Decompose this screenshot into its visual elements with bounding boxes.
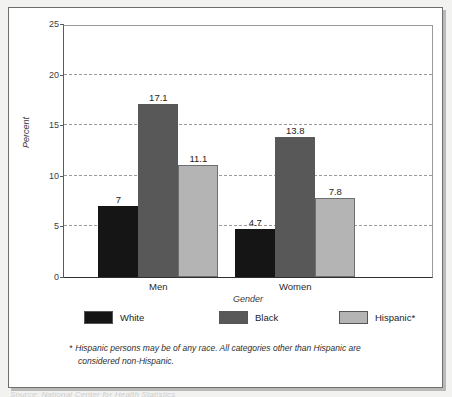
bar-value-label: 17.1 (149, 92, 168, 103)
plot-wrapper: Percent Gender 0510152025717.111.1Men4.7… (9, 8, 444, 389)
y-tick-mark-5 (60, 226, 64, 227)
x-group-label-women: Women (279, 281, 312, 292)
legend-item-black[interactable]: Black (219, 311, 278, 324)
legend-label-black: Black (255, 312, 278, 323)
bar-women-black: 13.8 (275, 137, 315, 277)
y-axis-title: Percent (21, 117, 31, 148)
y-tick-mark-0 (60, 277, 64, 278)
footnote-line-2: considered non-Hispanic. (69, 355, 389, 368)
bar-women-hispanic: 7.8 (315, 198, 355, 277)
gridline-10 (64, 175, 432, 176)
chart-legend: WhiteBlackHispanic* (9, 311, 444, 327)
bar-women-white: 4.7 (235, 229, 275, 277)
bar-men-hispanic: 11.1 (178, 165, 218, 277)
cut-off-caption: Source: National Center for Health Stati… (10, 390, 430, 397)
chart-footnote: *Hispanic persons may be of any race. Al… (69, 342, 389, 368)
footnote-text-1: Hispanic persons may be of any race. All… (75, 343, 361, 353)
y-tick-label-10: 10 (49, 171, 59, 181)
y-tick-label-5: 5 (54, 221, 59, 231)
bar-value-label: 13.8 (286, 125, 305, 136)
y-tick-mark-10 (60, 176, 64, 177)
legend-label-hispanic: Hispanic* (375, 312, 415, 323)
bar-men-white: 7 (98, 206, 138, 277)
footnote-line-1: *Hispanic persons may be of any race. Al… (69, 342, 389, 355)
figure-canvas: Percent Gender 0510152025717.111.1Men4.7… (0, 0, 452, 397)
y-tick-label-20: 20 (49, 70, 59, 80)
legend-item-white[interactable]: White (84, 311, 144, 324)
plot-area: 0510152025717.111.1Men4.713.87.8Women (63, 25, 433, 278)
legend-swatch-black (219, 311, 248, 324)
legend-label-white: White (120, 312, 144, 323)
bar-value-label: 4.7 (249, 217, 262, 228)
gridline-15 (64, 124, 432, 125)
y-tick-mark-20 (60, 75, 64, 76)
y-tick-label-0: 0 (54, 272, 59, 282)
y-tick-label-15: 15 (49, 120, 59, 130)
gridline-20 (64, 74, 432, 75)
bar-men-black: 17.1 (138, 104, 178, 277)
bar-value-label: 11.1 (189, 153, 207, 164)
legend-swatch-white (84, 311, 113, 324)
bar-value-label: 7 (116, 194, 121, 205)
x-group-label-men: Men (149, 281, 167, 292)
y-tick-mark-15 (60, 125, 64, 126)
chart-frame: Percent Gender 0510152025717.111.1Men4.7… (8, 7, 443, 388)
legend-swatch-hispanic (339, 311, 368, 324)
y-tick-label-25: 25 (49, 19, 59, 29)
legend-item-hispanic[interactable]: Hispanic* (339, 311, 415, 324)
bar-value-label: 7.8 (329, 186, 342, 197)
footnote-asterisk: * (69, 343, 72, 353)
x-axis-title: Gender (63, 294, 433, 304)
y-tick-mark-25 (60, 24, 64, 25)
